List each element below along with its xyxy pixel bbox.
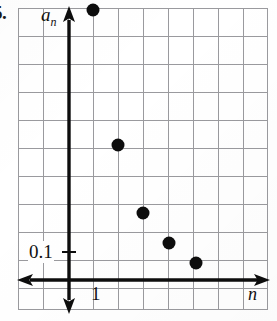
- x-axis-label: n: [248, 284, 257, 305]
- data-point: [137, 207, 150, 220]
- y-axis-tick-label: 0.1: [28, 241, 54, 263]
- data-point: [112, 139, 125, 152]
- sequence-scatter-figure: 5.: [0, 0, 277, 321]
- x-axis: [17, 274, 270, 286]
- y-axis-arrow-up: [63, 6, 75, 22]
- y-axis: [63, 6, 75, 314]
- data-point: [87, 4, 100, 17]
- data-point: [163, 237, 176, 250]
- axes-layer: [0, 0, 277, 321]
- data-point: [190, 257, 203, 270]
- y-axis-label: an: [41, 4, 57, 30]
- y-axis-arrow-down: [63, 298, 75, 314]
- x-axis-tick-label: 1: [91, 283, 101, 305]
